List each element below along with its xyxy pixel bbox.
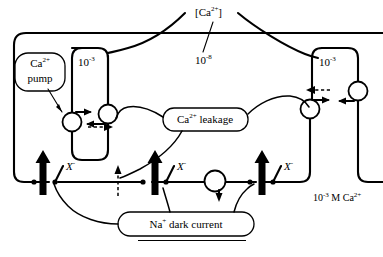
channel-arrow-3 (255, 150, 270, 195)
right-outer-node-arrowhead (338, 98, 346, 105)
calcium-transport-diagram: [Ca2+] 10-8 10-3 10-3 Ca2+ pump Ca2+ lea… (0, 0, 383, 257)
pump-label-line2: pump (27, 72, 53, 84)
channel-2-terminal-left (140, 179, 145, 184)
channel-label-1: X- (65, 159, 76, 172)
channel-3-switch-arm (273, 166, 281, 182)
left-outer-node-arrowhead (84, 109, 92, 116)
channel-arrow-1 (36, 150, 51, 195)
leader-curve-to-right-compartment (238, 13, 318, 58)
left-compartment-outer-node (63, 113, 82, 132)
leakage-label: Ca2+ leakage (177, 112, 233, 125)
left-compartment-concentration-label: 10-3 (78, 55, 95, 68)
channel-3-terminal-left (247, 179, 252, 184)
bottom-right-concentration-label: 10-3 M Ca2+ (313, 191, 361, 204)
right-leak-dashed-arrowhead (306, 86, 315, 94)
dark-current-curve-mid (163, 188, 170, 212)
channel-arrow-2 (148, 150, 163, 195)
channel-label-3: X- (283, 159, 294, 172)
leader-line-to-outer-concentration (203, 22, 213, 52)
right-compartment-right-wall-lower (358, 100, 383, 182)
figure-title: [Ca2+] (195, 5, 222, 18)
leakage-curve-to-right (248, 96, 309, 114)
channel-2-switch-arm (166, 166, 174, 182)
dark-current-label: Na+ dark current (150, 217, 223, 230)
membrane-leak-arrowhead (115, 165, 122, 174)
leakage-curve-to-membrane (120, 131, 182, 178)
right-compartment-concentration-label: 10-3 (319, 55, 336, 68)
dark-current-curve-left (54, 184, 118, 224)
membrane-exchanger-node (205, 171, 226, 192)
channel-1-terminal-left (31, 179, 36, 184)
channel-label-2: X- (176, 159, 187, 172)
right-inner-node-arrowhead (322, 97, 330, 104)
pump-leader-arrowhead (56, 104, 62, 112)
right-compartment-inner-node (301, 100, 320, 119)
outer-concentration-label: 10-8 (195, 53, 212, 66)
dark-current-curve-right (234, 184, 254, 212)
figure-root: [Ca2+] 10-8 10-3 10-3 Ca2+ pump Ca2+ lea… (0, 0, 383, 257)
channel-1-switch-arm (55, 166, 63, 182)
leakage-curve-to-left (116, 107, 163, 118)
left-compartment-inner-node (99, 105, 118, 124)
right-compartment-outer-node (349, 82, 368, 101)
exchanger-outflow-arrowhead (216, 193, 223, 202)
figure-separator-rule (138, 240, 246, 241)
